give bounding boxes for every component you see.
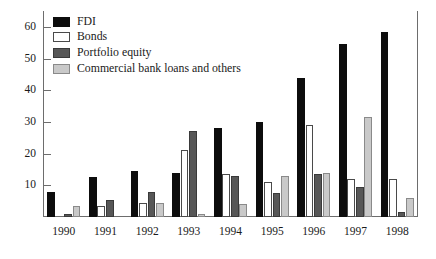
x-axis-label: 1993 bbox=[166, 226, 212, 238]
bar-fdi-1992 bbox=[131, 171, 139, 217]
bar-portfolio-equity-1991 bbox=[106, 200, 114, 217]
y-axis-label: 40 bbox=[8, 84, 36, 96]
bar-fdi-1996 bbox=[297, 78, 305, 217]
bar-fdi-1994 bbox=[214, 128, 222, 217]
bar-bonds-1998 bbox=[389, 179, 397, 217]
bar-portfolio-equity-1990 bbox=[64, 214, 72, 217]
bar-portfolio-equity-1997 bbox=[356, 187, 364, 217]
bar-chart: 102030405060 199019911992199319941995199… bbox=[0, 0, 436, 259]
y-axis-label: 10 bbox=[8, 179, 36, 191]
legend-label: Commercial bank loans and others bbox=[77, 63, 241, 75]
legend-item: Portfolio equity bbox=[53, 45, 241, 61]
bar-fdi-1991 bbox=[89, 177, 97, 217]
x-axis-label: 1994 bbox=[208, 226, 254, 238]
y-axis-label: 60 bbox=[8, 21, 36, 33]
bar-fdi-1998 bbox=[381, 32, 389, 217]
bar-portfolio-equity-1994 bbox=[231, 176, 239, 217]
x-axis-label: 1991 bbox=[83, 226, 129, 238]
bar-bonds-1996 bbox=[306, 125, 314, 217]
bar-bonds-1997 bbox=[347, 179, 355, 217]
y-axis-label: 20 bbox=[8, 148, 36, 160]
y-axis-label: 50 bbox=[8, 53, 36, 65]
bar-commercial-bank-loans-and-others-1993 bbox=[198, 214, 206, 217]
x-axis-label: 1996 bbox=[291, 226, 337, 238]
bar-fdi-1993 bbox=[172, 173, 180, 217]
y-axis-label: 30 bbox=[8, 116, 36, 128]
bar-bonds-1993 bbox=[181, 150, 189, 217]
legend-swatch-bonds bbox=[53, 32, 70, 42]
legend-item: FDI bbox=[53, 14, 241, 30]
x-axis-label: 1990 bbox=[41, 226, 87, 238]
bar-bonds-1991 bbox=[97, 206, 105, 217]
legend-swatch-portfolio bbox=[53, 48, 70, 58]
legend-item: Bonds bbox=[53, 30, 241, 46]
bar-bonds-1994 bbox=[222, 174, 230, 217]
bar-commercial-bank-loans-and-others-1997 bbox=[364, 117, 372, 217]
legend-label: Bonds bbox=[77, 31, 107, 43]
bar-portfolio-equity-1998 bbox=[398, 212, 406, 217]
bar-commercial-bank-loans-and-others-1996 bbox=[323, 173, 331, 217]
bar-commercial-bank-loans-and-others-1994 bbox=[239, 204, 247, 217]
x-axis-label: 1997 bbox=[333, 226, 379, 238]
legend-label: FDI bbox=[77, 16, 96, 28]
x-axis-label: 1995 bbox=[249, 226, 295, 238]
x-axis-label: 1992 bbox=[124, 226, 170, 238]
x-axis-label: 1998 bbox=[374, 226, 420, 238]
bar-portfolio-equity-1992 bbox=[148, 192, 156, 217]
bar-fdi-1990 bbox=[47, 192, 55, 217]
bar-portfolio-equity-1993 bbox=[189, 131, 197, 217]
legend-swatch-fdi bbox=[53, 17, 70, 27]
bar-bonds-1995 bbox=[264, 182, 272, 217]
bar-portfolio-equity-1995 bbox=[273, 193, 281, 217]
bar-commercial-bank-loans-and-others-1998 bbox=[406, 198, 414, 217]
legend-label: Portfolio equity bbox=[77, 47, 151, 59]
bar-commercial-bank-loans-and-others-1992 bbox=[156, 203, 164, 217]
legend-item: Commercial bank loans and others bbox=[53, 61, 241, 77]
bar-commercial-bank-loans-and-others-1995 bbox=[281, 176, 289, 217]
bar-fdi-1995 bbox=[256, 122, 264, 217]
legend: FDIBondsPortfolio equityCommercial bank … bbox=[53, 14, 241, 76]
bar-commercial-bank-loans-and-others-1990 bbox=[73, 206, 81, 217]
bar-fdi-1997 bbox=[339, 44, 347, 217]
bar-bonds-1992 bbox=[139, 203, 147, 217]
legend-swatch-commercial bbox=[53, 64, 70, 74]
bar-portfolio-equity-1996 bbox=[314, 174, 322, 217]
